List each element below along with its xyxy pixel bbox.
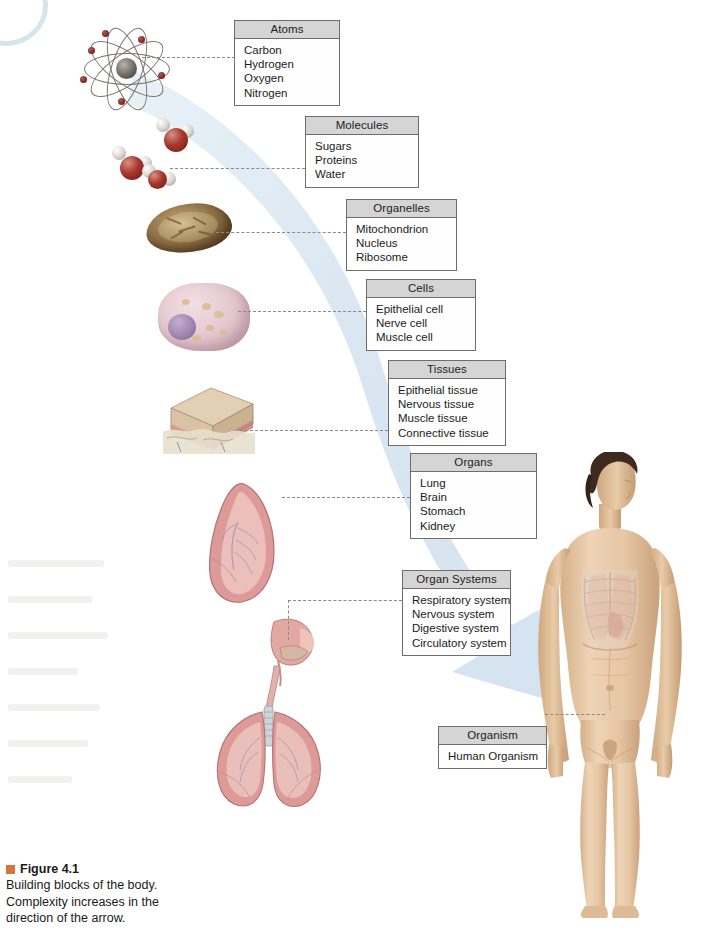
label-box-item: Water <box>315 167 418 181</box>
leader-line-molecules <box>170 168 305 169</box>
leader-line-organ-systems-riser <box>288 600 289 640</box>
label-box-item: Human Organism <box>448 749 546 763</box>
atom-illustration <box>78 28 174 108</box>
label-box-item: Stomach <box>420 504 536 518</box>
label-box-title: Organ Systems <box>403 571 510 589</box>
page-ghost-text <box>8 596 92 603</box>
figure-caption-line-2: Complexity increases in the <box>6 894 216 911</box>
label-box-item: Lung <box>420 476 536 490</box>
leader-line-tissues <box>240 430 388 431</box>
label-box-item: Circulatory system <box>412 636 510 650</box>
figure-number: Figure 4.1 <box>20 862 79 876</box>
lung-illustration <box>198 478 282 606</box>
leader-line-organ-systems <box>288 600 402 601</box>
label-box-molecules[interactable]: Molecules Sugars Proteins Water <box>305 116 419 188</box>
label-box-item: Oxygen <box>244 71 339 85</box>
label-box-organelles[interactable]: Organelles Mitochondrion Nucleus Ribosom… <box>346 199 457 271</box>
leader-line-atoms <box>142 57 235 58</box>
human-body-illustration <box>525 452 697 922</box>
label-box-organism[interactable]: Organism Human Organism <box>438 726 547 769</box>
label-box-item: Sugars <box>315 139 418 153</box>
water-molecules-illustration <box>112 118 212 188</box>
page-ghost-text <box>8 740 88 747</box>
label-box-item: Nervous system <box>412 607 510 621</box>
leader-line-organelles <box>216 232 346 233</box>
label-box-title: Tissues <box>389 361 505 379</box>
label-box-item: Nerve cell <box>376 316 475 330</box>
label-box-item: Carbon <box>244 43 339 57</box>
page-ghost-text <box>8 704 100 711</box>
label-box-item: Proteins <box>315 153 418 167</box>
label-box-item: Brain <box>420 490 536 504</box>
tissue-block-illustration <box>163 382 255 454</box>
label-box-item: Epithelial tissue <box>398 383 505 397</box>
leader-line-organism <box>545 714 605 715</box>
label-box-item: Nucleus <box>356 236 456 250</box>
label-box-item: Ribosome <box>356 250 456 264</box>
respiratory-system-illustration <box>200 612 332 810</box>
label-box-atoms[interactable]: Atoms Carbon Hydrogen Oxygen Nitrogen <box>234 20 340 106</box>
leader-line-cells <box>238 311 366 312</box>
label-box-item: Muscle tissue <box>398 411 505 425</box>
figure-caption: Figure 4.1 Building blocks of the body. … <box>6 862 216 927</box>
label-box-title: Atoms <box>235 21 339 39</box>
label-box-item: Digestive system <box>412 621 510 635</box>
page-ghost-text <box>8 632 108 639</box>
leader-line-organs <box>282 497 410 498</box>
label-box-title: Organelles <box>347 200 456 218</box>
label-box-organ-systems[interactable]: Organ Systems Respiratory system Nervous… <box>402 570 511 656</box>
label-box-item: Kidney <box>420 519 536 533</box>
label-box-item: Epithelial cell <box>376 302 475 316</box>
page-ghost-text <box>8 668 78 675</box>
figure-canvas: Atoms Carbon Hydrogen Oxygen Nitrogen Mo… <box>0 0 704 941</box>
page-ghost-text <box>8 560 104 567</box>
label-box-title: Cells <box>367 280 475 298</box>
page-ghost-text <box>8 776 72 783</box>
label-box-item: Muscle cell <box>376 330 475 344</box>
label-box-title: Organs <box>411 454 536 472</box>
label-box-item: Nitrogen <box>244 86 339 100</box>
figure-caption-line-1: Building blocks of the body. <box>6 877 216 894</box>
label-box-item: Hydrogen <box>244 57 339 71</box>
figure-bullet-icon <box>6 865 15 874</box>
label-box-organs[interactable]: Organs Lung Brain Stomach Kidney <box>410 453 537 539</box>
mitochondrion-illustration <box>146 200 232 256</box>
figure-caption-line-3: direction of the arrow. <box>6 910 216 927</box>
label-box-item: Respiratory system <box>412 593 510 607</box>
cell-illustration <box>158 283 250 353</box>
page-corner-decoration <box>0 0 48 46</box>
label-box-tissues[interactable]: Tissues Epithelial tissue Nervous tissue… <box>388 360 506 446</box>
label-box-title: Organism <box>439 727 546 745</box>
label-box-title: Molecules <box>306 117 418 135</box>
label-box-cells[interactable]: Cells Epithelial cell Nerve cell Muscle … <box>366 279 476 351</box>
label-box-item: Mitochondrion <box>356 222 456 236</box>
label-box-item: Connective tissue <box>398 426 505 440</box>
label-box-item: Nervous tissue <box>398 397 505 411</box>
